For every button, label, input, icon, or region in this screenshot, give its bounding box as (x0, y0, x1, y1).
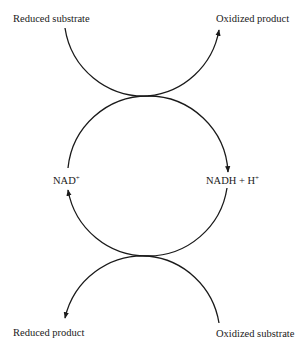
bottom-arc-arrow (65, 256, 219, 323)
label-oxidized-product: Oxidized product (216, 14, 289, 25)
label-nadh-superscript: + (255, 174, 259, 182)
middle-left-upper-arc (68, 96, 148, 168)
label-reduced-product: Reduced product (13, 328, 84, 339)
label-oxidized-substrate: Oxidized substrate (216, 329, 294, 340)
middle-right-arc-arrow (148, 96, 228, 172)
label-nad-text: NAD (53, 175, 76, 186)
label-nadh-text: NADH + H (206, 175, 255, 186)
middle-right-lower-arc (148, 188, 227, 256)
label-nadh-h-plus: NADH + H+ (206, 176, 259, 187)
label-nad-plus: NAD+ (53, 176, 80, 187)
label-reduced-substrate: Reduced substrate (13, 14, 90, 25)
label-nad-superscript: + (76, 174, 80, 182)
redox-cycle-diagram (0, 0, 296, 342)
top-arc-arrow (65, 28, 219, 96)
middle-left-arc-arrow (68, 190, 148, 256)
